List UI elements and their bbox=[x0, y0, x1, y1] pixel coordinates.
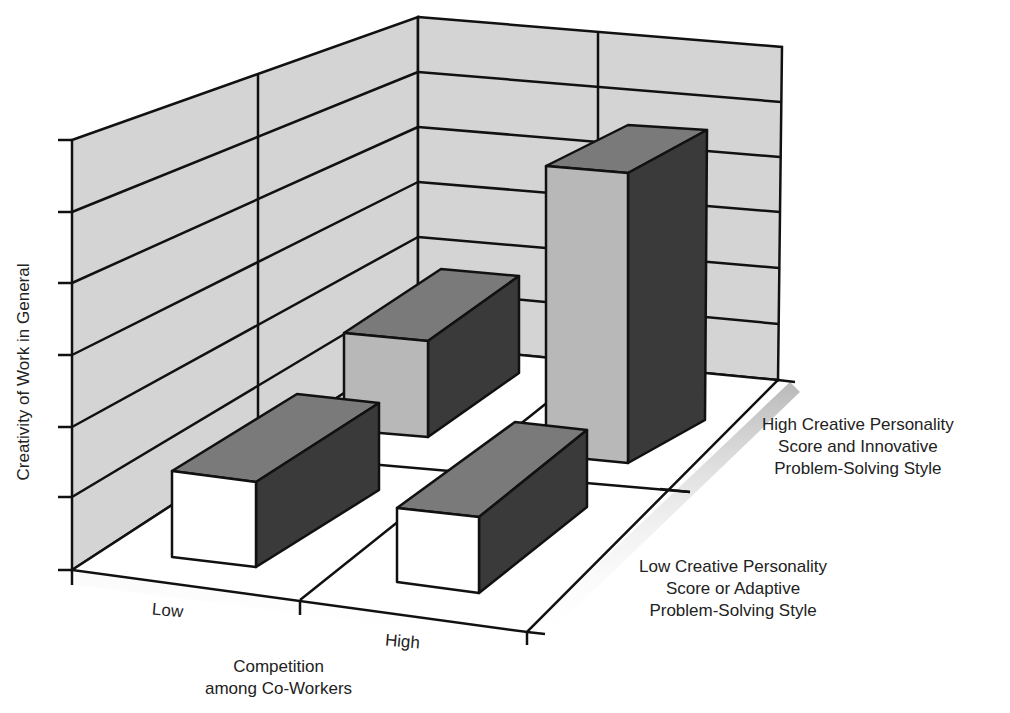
series-high-line1: High Creative Personality bbox=[762, 414, 954, 436]
x-axis-label: Competition among Co-Workers bbox=[205, 656, 352, 700]
bar-high-competition-high-creative bbox=[546, 125, 707, 463]
series-high-line3: Problem-Solving Style bbox=[762, 458, 954, 480]
x-tick-high: High bbox=[384, 630, 421, 655]
x-tick-low: Low bbox=[151, 599, 184, 624]
x-axis-label-line2: among Co-Workers bbox=[205, 678, 352, 700]
series-low-line2: Score or Adaptive bbox=[639, 578, 827, 600]
series-label-low-creative: Low Creative Personality Score or Adapti… bbox=[639, 556, 827, 622]
y-axis-label: Creativity of Work in General bbox=[14, 264, 34, 481]
series-low-line1: Low Creative Personality bbox=[639, 556, 827, 578]
series-label-high-creative: High Creative Personality Score and Inno… bbox=[762, 414, 954, 480]
series-high-line2: Score and Innovative bbox=[762, 436, 954, 458]
series-low-line3: Problem-Solving Style bbox=[639, 600, 827, 622]
x-axis-label-line1: Competition bbox=[205, 656, 352, 678]
